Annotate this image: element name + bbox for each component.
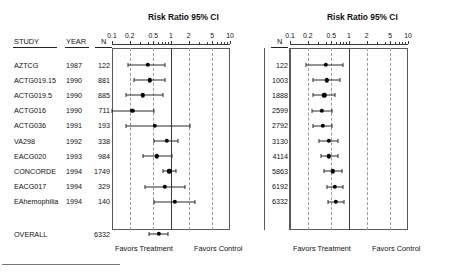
study-name-cell: EAhemophilia — [14, 197, 58, 206]
left-axis-tick-minor — [221, 42, 222, 44]
right-axis-tick-major — [331, 41, 332, 44]
right-ci-cap-lower — [318, 139, 319, 143]
right-favors-control-label: Favors Control — [372, 244, 420, 253]
right-ci-cap-upper — [342, 185, 343, 189]
right-axis-tick-minor — [405, 42, 406, 44]
left-ci-cap-upper — [190, 124, 191, 128]
study-name-cell: VA298 — [14, 137, 35, 146]
cumulative-n-cell: 1888 — [258, 91, 288, 100]
left-ci-cap-lower — [154, 200, 155, 204]
left-axis-tick-major — [171, 41, 172, 44]
right-axis-tick-major — [290, 41, 291, 44]
left-axis-tick-label: 0.5 — [149, 32, 158, 40]
left-axis-tick-minor — [140, 42, 141, 44]
left-null-effect-line — [171, 48, 172, 230]
right-gridline — [308, 48, 309, 230]
left-axis-tick-major — [153, 41, 154, 44]
right-axis-tick-minor — [343, 42, 344, 44]
left-axis-tick-label: 0.2 — [125, 32, 134, 40]
study-name-cell: ACTG036 — [14, 121, 46, 130]
right-gridline — [367, 48, 368, 230]
right-axis-line — [290, 44, 408, 45]
column-header-n-right: N — [277, 37, 282, 46]
right-axis-tick-minor — [385, 42, 386, 44]
n-header-rule-left — [95, 47, 112, 48]
right-axis-tick-minor — [346, 42, 347, 44]
left-axis-tick-major — [189, 41, 190, 44]
right-axis-tick-minor — [318, 42, 319, 44]
left-ci-cap-lower — [112, 109, 113, 113]
left-ci-cap-lower — [134, 78, 135, 82]
study-n-cell: 711 — [80, 106, 110, 115]
left-axis-tick-major — [230, 41, 231, 44]
study-n-cell: 329 — [80, 182, 110, 191]
left-ci-cap-upper — [177, 139, 178, 143]
cumulative-n-cell: 1003 — [258, 76, 288, 85]
study-n-cell: 984 — [80, 152, 110, 161]
study-header-rule — [13, 47, 57, 48]
left-axis-tick-minor — [224, 42, 225, 44]
right-axis-tick-major — [308, 41, 309, 44]
study-name-cell: EACG017 — [14, 182, 46, 191]
cumulative-n-cell: 6332 — [258, 197, 288, 206]
right-ci-cap-lower — [306, 63, 307, 67]
right-ci-cap-lower — [313, 124, 314, 128]
right-axis-tick-label: 0.1 — [285, 32, 294, 40]
left-axis-tick-minor — [207, 42, 208, 44]
right-ci-cap-lower — [313, 93, 314, 97]
left-ci-cap-upper — [162, 93, 163, 97]
right-axis-tick-minor — [399, 42, 400, 44]
left-ci-cap-lower — [128, 63, 129, 67]
left-confidence-interval — [126, 125, 190, 126]
right-ci-cap-upper — [337, 154, 338, 158]
left-ci-cap-upper — [195, 200, 196, 204]
left-axis-tick-minor — [199, 42, 200, 44]
left-gridline — [189, 48, 190, 230]
column-header-year: YEAR — [66, 37, 86, 46]
footer-rule — [2, 264, 120, 265]
right-ci-cap-lower — [323, 169, 324, 173]
right-ci-cap-upper — [341, 169, 342, 173]
right-axis-tick-major — [367, 41, 368, 44]
right-ci-cap-upper — [335, 93, 336, 97]
left-panel-title: Risk Ratio 95% CI — [148, 12, 219, 22]
left-axis-tick-minor — [165, 42, 166, 44]
left-ci-cap-lower — [142, 154, 143, 158]
left-axis-tick-minor — [162, 42, 163, 44]
left-ci-cap-upper — [175, 169, 176, 173]
right-axis-tick-major — [408, 41, 409, 44]
study-n-cell: 140 — [80, 197, 110, 206]
right-axis-tick-label: 5 — [388, 32, 392, 40]
study-n-cell: 338 — [80, 137, 110, 146]
right-panel-title: Risk Ratio 95% CI — [327, 12, 398, 22]
left-axis-tick-minor — [227, 42, 228, 44]
left-axis-line — [112, 44, 230, 45]
left-axis-tick-label: 2 — [187, 32, 191, 40]
study-name-cell: ACTG019.15 — [14, 76, 56, 85]
left-ci-cap-lower — [125, 93, 126, 97]
right-axis-tick-minor — [336, 42, 337, 44]
left-axis-tick-label: 5 — [210, 32, 214, 40]
right-ci-cap-upper — [337, 139, 338, 143]
cumulative-n-cell: 2599 — [258, 106, 288, 115]
right-null-effect-line — [349, 48, 350, 230]
right-gridline — [390, 48, 391, 230]
left-ci-cap-upper — [172, 154, 173, 158]
right-gridline — [331, 48, 332, 230]
right-ci-cap-lower — [320, 154, 321, 158]
study-n-cell: 881 — [80, 76, 110, 85]
cumulative-n-cell: 122 — [258, 61, 288, 70]
left-axis-tick-minor — [158, 42, 159, 44]
left-axis-tick-label: 10 — [226, 32, 234, 40]
study-n-cell: 1749 — [80, 167, 110, 176]
study-name-cell: ACTG019.5 — [14, 91, 52, 100]
right-axis-tick-label: 1 — [347, 32, 351, 40]
left-ci-cap-upper — [154, 109, 155, 113]
study-n-cell: 193 — [80, 121, 110, 130]
left-ci-cap-upper — [167, 232, 168, 236]
right-ci-cap-upper — [342, 63, 343, 67]
right-axis-tick-minor — [326, 42, 327, 44]
right-axis-tick-major — [349, 41, 350, 44]
column-header-n-left: N — [101, 37, 106, 46]
left-overall-marker — [157, 232, 161, 236]
